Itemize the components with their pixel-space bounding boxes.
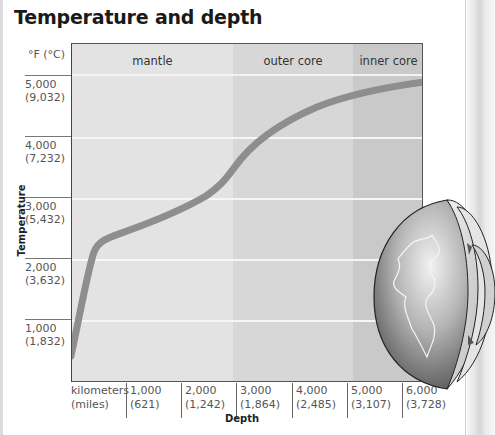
x-tick-miles: (621) [130, 398, 162, 412]
x-tick-4000: 4,000 (2,485) [292, 383, 336, 418]
x-tick-km: 2,000 [185, 384, 225, 398]
y-tick-4000: 4,000 (7,232) [25, 136, 71, 165]
y-tick-f: 5,000 [25, 78, 71, 91]
x-unit-miles: (miles) [71, 398, 129, 412]
x-tick-miles: (3,728) [406, 398, 446, 412]
y-unit-label: °F (°C) [28, 48, 65, 61]
y-tick-1000: 1,000 (1,832) [25, 319, 71, 348]
earth-cutaway-icon [372, 197, 495, 397]
page-edge [0, 0, 3, 435]
y-tick-c: (1,832) [25, 335, 71, 348]
x-tick-km: 3,000 [240, 384, 280, 398]
y-tick-c: (7,232) [25, 152, 71, 165]
y-tick-c: (5,432) [25, 213, 71, 226]
y-tick-f: 4,000 [25, 139, 71, 152]
y-tick-5000: 5,000 (9,032) [25, 75, 71, 104]
x-tick-miles: (2,485) [296, 398, 336, 412]
y-tick-2000: 2,000 (3,632) [25, 258, 71, 287]
y-tick-f: 3,000 [25, 200, 71, 213]
x-axis-label: Depth [225, 413, 259, 424]
x-tick-miles: (1,864) [240, 398, 280, 412]
y-tick-f: 2,000 [25, 261, 71, 274]
y-tick-c: (9,032) [25, 91, 71, 104]
x-tick-miles: (3,107) [351, 398, 391, 412]
y-tick-3000: 3,000 (5,432) [25, 197, 71, 226]
x-tick-miles: (1,242) [185, 398, 225, 412]
x-unit-km: kilometers [71, 384, 129, 398]
x-tick-km: 1,000 [130, 384, 162, 398]
y-tick-f: 1,000 [25, 322, 71, 335]
x-tick-2000: 2,000 (1,242) [181, 383, 225, 418]
y-tick-c: (3,632) [25, 274, 71, 287]
chart-title: Temperature and depth [14, 6, 262, 28]
plot-area: mantle outer core inner core [71, 43, 423, 382]
temperature-curve [72, 44, 423, 382]
x-tick-km: 4,000 [296, 384, 336, 398]
x-unit-label: kilometers (miles) [71, 384, 129, 412]
x-tick-1000: 1,000 (621) [126, 383, 162, 418]
